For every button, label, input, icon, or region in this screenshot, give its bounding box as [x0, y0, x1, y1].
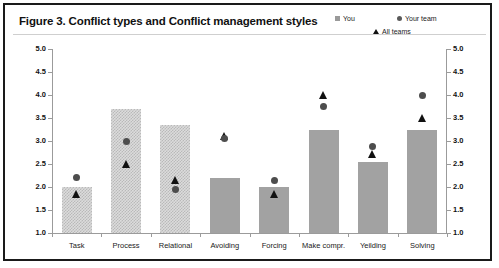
figure-title: Figure 3. Conflict types and Conflict ma… [19, 15, 317, 27]
y-axis-label: 2.5 [22, 159, 46, 168]
x-axis-tick [52, 233, 53, 237]
y-axis-tick-r [447, 72, 451, 73]
y-axis-left [52, 49, 53, 234]
marker-all-teams [171, 176, 179, 184]
legend-item-your-team: Your team [397, 15, 437, 22]
y-axis-label: 2.0 [22, 182, 46, 191]
y-axis-tick-l [48, 49, 52, 50]
y-axis-tick-l [48, 141, 52, 142]
x-axis-tick [101, 233, 102, 237]
y-axis-label: 3.0 [453, 136, 477, 145]
y-axis-tick-r [447, 141, 451, 142]
marker-your-team [419, 92, 426, 99]
x-axis-tick [398, 233, 399, 237]
marker-all-teams [418, 114, 426, 122]
y-axis-label: 4.5 [22, 67, 46, 76]
marker-your-team [271, 177, 278, 184]
x-axis-tick [151, 233, 152, 237]
figure-screenshot: Figure 3. Conflict types and Conflict ma… [0, 0, 499, 268]
y-axis-label: 2.0 [453, 182, 477, 191]
marker-all-teams [368, 150, 376, 158]
y-axis-label: 4.0 [22, 90, 46, 99]
x-axis-label-3: Avoiding [200, 241, 249, 250]
x-axis-tick [447, 233, 448, 237]
y-axis-label: 3.5 [22, 113, 46, 122]
y-axis-label: 1.0 [453, 228, 477, 237]
plot-area: 5.05.04.54.54.04.03.53.53.03.02.52.52.02… [52, 49, 447, 234]
y-axis-tick-r [447, 49, 451, 50]
x-axis-tick [348, 233, 349, 237]
bar-yeilding [358, 162, 388, 233]
y-axis-label: 1.5 [453, 205, 477, 214]
bar-avoiding [210, 178, 240, 233]
marker-your-team [123, 138, 130, 145]
marker-your-team [73, 174, 80, 181]
marker-all-teams [72, 190, 80, 198]
legend-item-all-teams: All teams [373, 28, 411, 35]
y-axis-tick-r [447, 95, 451, 96]
marker-all-teams [270, 190, 278, 198]
y-axis-label: 5.0 [453, 44, 477, 53]
y-axis-tick-r [447, 187, 451, 188]
marker-your-team [172, 186, 179, 193]
y-axis-tick-l [48, 210, 52, 211]
legend-item-you: You [335, 15, 355, 22]
legend-label-you: You [343, 15, 355, 22]
marker-your-team [221, 135, 228, 142]
square-swatch-icon [335, 16, 340, 21]
y-axis-label: 4.5 [453, 67, 477, 76]
marker-all-teams [319, 91, 327, 99]
legend-label-all-teams: All teams [382, 28, 411, 35]
y-axis-tick-r [447, 118, 451, 119]
chart-legend: You Your team All teams [335, 13, 490, 41]
y-axis-tick-l [48, 187, 52, 188]
y-axis-label: 1.0 [22, 228, 46, 237]
x-axis-label-0: Task [52, 241, 101, 250]
marker-all-teams [122, 160, 130, 168]
x-axis-label-4: Forcing [250, 241, 299, 250]
x-axis-tick [299, 233, 300, 237]
y-axis-label: 1.5 [22, 205, 46, 214]
x-axis-label-1: Process [101, 241, 150, 250]
y-axis-tick-l [48, 164, 52, 165]
circle-swatch-icon [397, 16, 402, 21]
x-axis-tick [200, 233, 201, 237]
y-axis-tick-l [48, 118, 52, 119]
y-axis-label: 2.5 [453, 159, 477, 168]
x-axis-label-5: Make compr. [299, 241, 348, 250]
legend-label-your-team: Your team [405, 15, 437, 22]
y-axis-label: 3.5 [453, 113, 477, 122]
y-axis-tick-r [447, 210, 451, 211]
y-axis-label: 3.0 [22, 136, 46, 145]
marker-your-team [320, 103, 327, 110]
triangle-swatch-icon [373, 29, 379, 34]
x-axis-label-2: Relational [151, 241, 200, 250]
y-axis-tick-l [48, 72, 52, 73]
x-axis-tick [250, 233, 251, 237]
bar-make-compr [309, 130, 339, 234]
figure-frame: Figure 3. Conflict types and Conflict ma… [3, 3, 492, 261]
x-axis-label-7: Solving [398, 241, 447, 250]
bar-process [111, 109, 141, 233]
bar-solving [407, 130, 437, 234]
y-axis-label: 4.0 [453, 90, 477, 99]
y-axis-tick-r [447, 164, 451, 165]
y-axis-tick-l [48, 95, 52, 96]
x-axis-label-6: Yeilding [348, 241, 397, 250]
y-axis-label: 5.0 [22, 44, 46, 53]
